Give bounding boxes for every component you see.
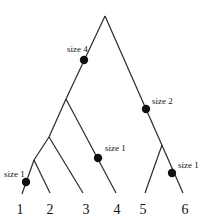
size-label: size 1 — [178, 160, 199, 170]
edge-123-3 — [49, 137, 83, 193]
size-marker-dot — [168, 169, 176, 177]
size-label: size 1 — [4, 169, 25, 179]
size-label: size 1 — [105, 143, 126, 153]
size-marker-dot — [22, 178, 30, 186]
size-marker-dot — [94, 154, 102, 162]
edge-56-5 — [145, 145, 162, 193]
leaf-label-4: 4 — [114, 202, 121, 217]
size-marker-dot — [142, 105, 150, 113]
tree-diagram: size 4 size 2 size 1 size 1 size 1 1 2 3… — [0, 0, 206, 222]
size-label: size 4 — [67, 44, 88, 54]
edge-12-2 — [34, 160, 50, 193]
leaf-label-2: 2 — [47, 202, 54, 217]
leaf-label-3: 3 — [83, 202, 90, 217]
leaf-label-6: 6 — [182, 202, 189, 217]
leaf-label-1: 1 — [17, 202, 24, 217]
edge-123-12 — [34, 137, 49, 160]
size-label: size 2 — [152, 96, 173, 106]
leaf-label-5: 5 — [140, 202, 147, 217]
edge-left-123 — [49, 99, 66, 137]
size-marker-dot — [80, 56, 88, 64]
